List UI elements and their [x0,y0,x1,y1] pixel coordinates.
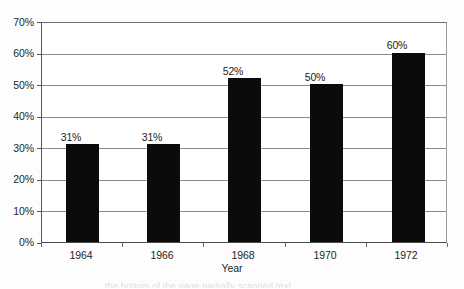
y-axis-label-30: 30% [0,143,34,153]
y-axis-label-40: 40% [0,111,34,121]
bar-1972[interactable] [392,53,425,242]
bar-1964[interactable] [66,144,99,242]
y-axis-label-60: 60% [0,48,34,58]
y-axis-label-0: 0% [0,237,34,247]
x-axis-label-1972: 1972 [380,249,432,261]
y-axis-label-70: 70% [0,17,34,27]
scan-artifact-text: the bottom of the page partially scanned… [105,281,435,288]
plot-area [41,22,447,243]
gridline-60 [42,54,446,55]
x-axis-label-1966: 1966 [136,249,188,261]
data-label-1966: 31% [126,132,178,143]
y-axis-label-20: 20% [0,174,34,184]
bar-1970[interactable] [310,84,343,242]
x-axis-tick-2 [203,243,204,247]
data-label-1970: 50% [289,72,341,83]
y-axis-label-50: 50% [0,80,34,90]
x-axis-title: Year [0,262,464,274]
x-axis-label-1970: 1970 [299,249,351,261]
x-axis-tick-0 [41,243,42,247]
x-axis-tick-1 [122,243,123,247]
data-label-1968: 52% [207,66,259,77]
data-label-1972: 60% [371,40,423,51]
x-axis-label-1968: 1968 [217,249,269,261]
x-axis-tick-3 [285,243,286,247]
x-axis-tick-4 [366,243,367,247]
bar-1968[interactable] [228,78,261,242]
bar-chart-figure: 70% 60% 50% 40% 30% 20% 10% 0% 31% 31% 5… [0,0,464,289]
x-axis-tick-5 [447,243,448,247]
bar-1966[interactable] [147,144,180,242]
data-label-1964: 31% [45,132,97,143]
x-axis-label-1964: 1964 [55,249,107,261]
y-axis-label-10: 10% [0,206,34,216]
